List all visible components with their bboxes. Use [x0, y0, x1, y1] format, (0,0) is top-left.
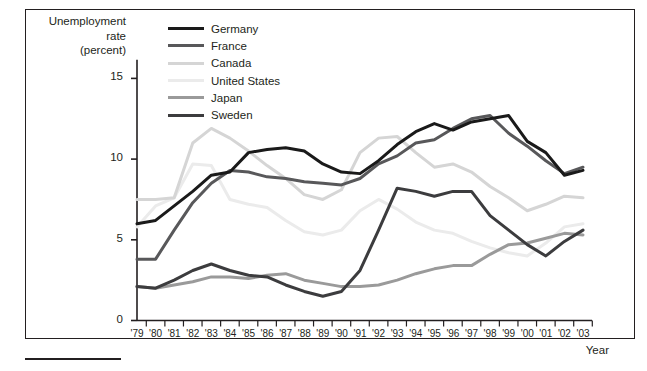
unemployment-rate-chart-figure: Unemployment rate (percent) GermanyFranc… — [0, 0, 647, 371]
series-line-japan — [137, 233, 583, 288]
series-line-germany — [137, 116, 583, 224]
y-axis-tick-label: 5 — [99, 232, 123, 244]
y-axis-tick-label: 10 — [99, 151, 123, 163]
y-axis-tick-label: 0 — [99, 313, 123, 325]
chart-plot-area — [0, 0, 647, 371]
y-axis-tick-label: 15 — [99, 70, 123, 82]
series-line-canada — [137, 128, 583, 210]
x-axis-tick-label: '03 — [572, 328, 594, 339]
x-axis-title: Year — [586, 344, 609, 356]
